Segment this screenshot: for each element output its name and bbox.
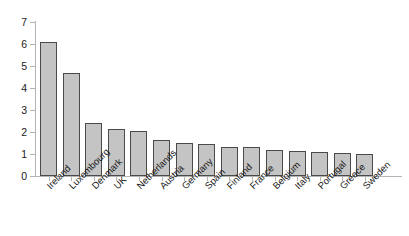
y-tick-label: 4 xyxy=(6,83,27,94)
bars-container xyxy=(36,22,402,176)
y-tick-label: 7 xyxy=(6,17,27,28)
y-tick-label: 0 xyxy=(6,171,27,182)
y-tick-label: 6 xyxy=(6,39,27,50)
y-tick-label: 2 xyxy=(6,127,27,138)
bar xyxy=(63,73,80,176)
y-tick-mark xyxy=(30,176,36,177)
bar-chart: 01234567 IrelandLuxembourgDenmarkUKNethe… xyxy=(0,0,409,236)
y-tick-label: 5 xyxy=(6,61,27,72)
bar xyxy=(130,131,147,176)
y-tick-label: 1 xyxy=(6,149,27,160)
bar xyxy=(40,42,57,176)
x-axis-label-uk: UK xyxy=(112,175,128,191)
y-tick-label: 3 xyxy=(6,105,27,116)
